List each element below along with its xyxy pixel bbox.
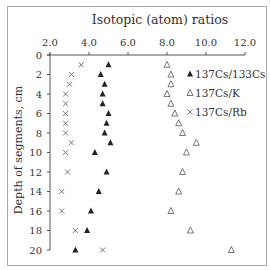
x-tick-label: 12.0 <box>234 37 256 48</box>
y-tick-label: 12 <box>29 167 42 178</box>
chart-title: Isotopic (atom) ratios <box>92 12 228 27</box>
y-tick-label: 14 <box>29 186 42 197</box>
y-tick-label: 6 <box>36 108 42 119</box>
y-tick-label: 18 <box>29 225 42 236</box>
y-axis: 02468101214161820 <box>29 50 50 256</box>
legend-label: 137Cs/Rb <box>195 106 247 118</box>
legend-label: 137Cs/K <box>195 87 240 99</box>
x-tick-label: 8.0 <box>159 37 175 48</box>
y-tick-label: 16 <box>29 206 42 217</box>
x-tick-label: 2.0 <box>42 37 58 48</box>
x-axis: 2.04.06.08.010.012.0 <box>42 37 256 55</box>
y-axis-label: Depth of segments, cm <box>12 85 25 214</box>
y-tick-label: 4 <box>36 89 42 100</box>
x-tick-label: 4.0 <box>81 37 97 48</box>
y-tick-label: 0 <box>36 50 42 61</box>
y-tick-label: 10 <box>29 147 42 158</box>
x-tick-label: 10.0 <box>195 37 217 48</box>
y-tick-label: 8 <box>36 128 42 139</box>
legend: 137Cs/133Cs137Cs/K137Cs/Rb <box>187 68 265 118</box>
scatter-chart: Isotopic (atom) ratios 2.04.06.08.010.01… <box>0 0 270 270</box>
x-tick-label: 6.0 <box>120 37 136 48</box>
y-tick-label: 2 <box>36 69 42 80</box>
legend-label: 137Cs/133Cs <box>195 68 265 80</box>
y-tick-label: 20 <box>29 245 42 256</box>
